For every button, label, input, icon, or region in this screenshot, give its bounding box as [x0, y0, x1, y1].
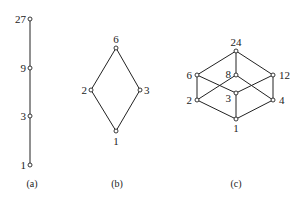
label-2: 2	[82, 84, 88, 96]
caption-a: (a)	[26, 178, 37, 190]
label-12: 12	[279, 69, 290, 81]
node-3	[234, 91, 238, 95]
label-3: 3	[21, 110, 27, 122]
label-6: 6	[187, 69, 193, 81]
edge-3-1	[116, 90, 140, 131]
edge-24-12	[236, 51, 273, 75]
edge-8-4	[236, 75, 273, 100]
node-9	[28, 66, 32, 70]
label-24: 24	[231, 36, 243, 48]
node-6	[195, 73, 199, 77]
label-9: 9	[21, 62, 27, 74]
edge-12-3	[236, 75, 273, 93]
edge-6-3	[116, 48, 140, 90]
label-1: 1	[21, 159, 27, 171]
node-3	[138, 88, 142, 92]
diagram-a: 27 9 3 1 (a)	[15, 13, 38, 190]
label-27: 27	[15, 13, 27, 25]
label-1: 1	[233, 122, 239, 134]
node-12	[271, 73, 275, 77]
caption-b: (b)	[111, 178, 123, 190]
label-2: 2	[187, 94, 193, 106]
label-3: 3	[226, 92, 232, 104]
edge-2-1	[91, 90, 116, 131]
label-1: 1	[113, 135, 119, 147]
edge-4-1	[236, 100, 273, 119]
node-24	[234, 49, 238, 53]
node-8	[234, 73, 238, 77]
node-1	[234, 117, 238, 121]
diagram-c: 24 6 8 12 2 3 4 1 (c)	[187, 36, 291, 190]
label-8: 8	[226, 68, 232, 80]
node-27	[28, 17, 32, 21]
label-4: 4	[279, 94, 285, 106]
node-2	[195, 98, 199, 102]
node-6	[114, 46, 118, 50]
node-3	[28, 114, 32, 118]
edge-6-2	[91, 48, 116, 90]
hasse-diagrams-figure: 27 9 3 1 (a) 6 2 3 1 (b)	[0, 0, 303, 209]
node-1	[28, 163, 32, 167]
label-3: 3	[144, 84, 150, 96]
label-6: 6	[113, 33, 119, 45]
node-1	[114, 129, 118, 133]
caption-c: (c)	[230, 178, 241, 190]
diagram-canvas: 27 9 3 1 (a) 6 2 3 1 (b)	[0, 0, 303, 209]
node-4	[271, 98, 275, 102]
diagram-b: 6 2 3 1 (b)	[82, 33, 151, 190]
node-2	[89, 88, 93, 92]
